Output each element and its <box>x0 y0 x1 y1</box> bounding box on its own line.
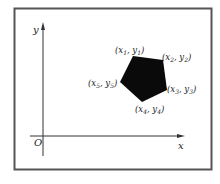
vertex-label-1: (x1, y1) <box>115 45 144 56</box>
vertex-label-3: (x3, y3) <box>167 84 196 95</box>
x-axis-arrow-icon <box>177 134 185 138</box>
vertex-label-4: (x4, y4) <box>135 104 164 115</box>
y-axis-arrow-icon <box>41 22 45 30</box>
y-axis-label: y <box>32 24 39 35</box>
vertex-label-5: (x5, y5) <box>88 78 117 89</box>
x-axis-label: x <box>178 140 184 151</box>
origin-label: O <box>34 137 42 148</box>
pentagon-shape <box>120 56 167 102</box>
vertex-label-2: (x2, y2) <box>162 52 191 63</box>
coordinate-diagram: y x O (x1, y1) (x2, y2) (x3, y3) (x4, y4… <box>0 0 220 184</box>
